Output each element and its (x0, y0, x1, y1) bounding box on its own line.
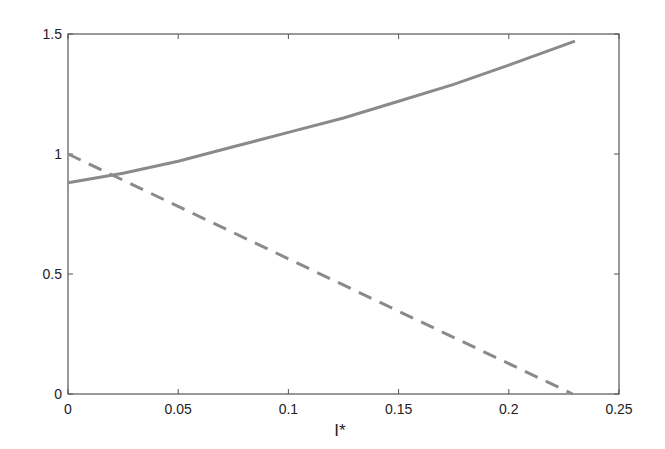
x-axis-label: I* (334, 421, 346, 440)
y-tick-label: 0.5 (43, 266, 63, 282)
x-tick-label: 0 (64, 401, 72, 417)
series-lines (68, 41, 575, 394)
line-chart: 00.050.10.150.20.2500.511.5 I* (0, 0, 665, 449)
y-tick-label: 0 (54, 386, 62, 402)
y-tick-label: 1 (54, 146, 62, 162)
series-solid-line (68, 41, 575, 183)
x-tick-label: 0.2 (499, 401, 519, 417)
series-dashed-line (68, 154, 573, 394)
x-tick-label: 0.15 (385, 401, 412, 417)
x-tick-label: 0.05 (165, 401, 192, 417)
y-tick-label: 1.5 (43, 26, 63, 42)
x-tick-label: 0.1 (279, 401, 299, 417)
plot-frame (68, 34, 619, 394)
axis-ticks: 00.050.10.150.20.2500.511.5 (43, 26, 633, 417)
x-tick-label: 0.25 (605, 401, 632, 417)
